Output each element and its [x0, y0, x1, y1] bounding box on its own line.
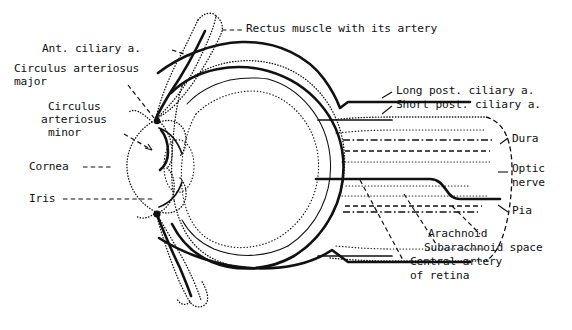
- label-optic-nerve-line1: Optic: [512, 163, 545, 176]
- leader-short-post-ciliary: [382, 106, 392, 114]
- label-arachnoid: Arachnoid: [428, 228, 487, 241]
- rectus-muscle-inferior: [156, 213, 208, 307]
- label-circulus-major-line1: Circulus arteriosus: [14, 63, 139, 76]
- label-central-artery-line1: Central artery: [410, 256, 502, 269]
- anterior-ciliary-artery-superior: [160, 130, 168, 170]
- label-optic-nerve-line2: nerve: [512, 177, 545, 190]
- label-pia: Pia: [512, 205, 532, 218]
- cornea: [127, 110, 156, 218]
- ciliary-body-inferior: [159, 182, 182, 207]
- leader-pia: [498, 205, 508, 212]
- leader-circulus-minor: [124, 134, 152, 150]
- choroid-vessel-layer: [182, 78, 331, 255]
- label-circulus-minor-line3: minor: [48, 127, 81, 140]
- label-subarachnoid-space: Subarachnoid space: [424, 242, 543, 255]
- label-short-post-ciliary-artery: Short post. ciliary a.: [396, 99, 541, 112]
- leader-dura: [500, 138, 508, 144]
- label-iris: Iris: [29, 193, 55, 206]
- retina: [181, 91, 318, 248]
- label-long-post-ciliary-artery: Long post. ciliary a.: [396, 85, 534, 98]
- leader-long-post-ciliary: [382, 92, 392, 98]
- label-circulus-minor-line1: Circulus: [48, 101, 101, 114]
- label-circulus-minor-line2: arteriosus: [41, 114, 107, 127]
- circulus-arteriosus-major-dot: [154, 118, 161, 125]
- label-ant-ciliary-artery: Ant. ciliary a.: [42, 43, 141, 56]
- label-cornea: Cornea: [29, 161, 69, 174]
- circulus-arteriosus-minor-dot: [153, 210, 160, 217]
- label-rectus-muscle: Rectus muscle with its artery: [246, 23, 437, 36]
- label-circulus-major-line2: major: [14, 76, 47, 89]
- leader-central-artery: [360, 180, 404, 262]
- label-central-artery-line2: of retina: [410, 270, 469, 283]
- label-dura: Dura: [512, 133, 538, 146]
